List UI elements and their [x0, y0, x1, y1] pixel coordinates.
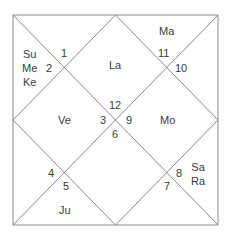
sign-number-12: 12	[109, 99, 121, 111]
planet-label-rahu: Ra	[191, 174, 205, 188]
planet-label-ketu: Ke	[23, 75, 36, 89]
planet-label-mercury: Me	[22, 61, 37, 75]
sign-number-6: 6	[112, 128, 118, 140]
planet-label-jupiter: Ju	[59, 204, 71, 217]
sign-number-11: 11	[158, 47, 169, 59]
planet-label-saturn: Sa	[191, 160, 204, 174]
sign-number-1: 1	[61, 47, 67, 59]
sign-number-3: 3	[100, 114, 106, 126]
kundli-chart-lines	[0, 0, 227, 234]
house-11-planets: Su Me Ke	[22, 47, 37, 89]
planet-label-moon: Mo	[160, 114, 175, 127]
house-5-planets: Sa Ra	[191, 160, 205, 188]
planet-label-sun: Su	[23, 47, 36, 61]
sign-number-4: 4	[48, 167, 54, 179]
planet-label-mars: Ma	[159, 25, 174, 38]
sign-number-5: 5	[63, 180, 69, 192]
sign-number-9: 9	[126, 114, 132, 126]
sign-number-7: 7	[164, 180, 170, 192]
planet-label-lagna: La	[109, 59, 121, 72]
sign-number-10: 10	[175, 62, 187, 74]
sign-number-2: 2	[46, 62, 52, 74]
planet-label-venus: Ve	[58, 114, 71, 127]
sign-number-8: 8	[176, 167, 182, 179]
